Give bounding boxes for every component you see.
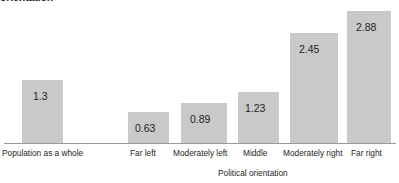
category-axis-line [4,143,396,144]
bar-value-label: 2.45 [299,43,319,55]
bar [238,92,279,143]
category-label: Far left [130,148,156,158]
x-axis-title: Political orientation [218,168,288,178]
category-label: Moderately right [283,148,343,158]
category-label: Middle [243,148,267,158]
category-label: Moderately left [173,148,227,158]
bar-value-label: 1.3 [33,90,48,102]
bar-value-label: 0.89 [190,113,210,125]
bar-chart: orientation 1.30.630.891.232.452.88 Poli… [0,0,399,183]
bar-value-label: 1.23 [245,102,265,114]
bar-value-label: 0.63 [135,122,155,134]
category-label: Far right [351,148,382,158]
bar-value-label: 2.88 [356,21,376,33]
plot-area: 1.30.630.891.232.452.88 [0,0,399,144]
category-label: Population as a whole [2,148,83,158]
